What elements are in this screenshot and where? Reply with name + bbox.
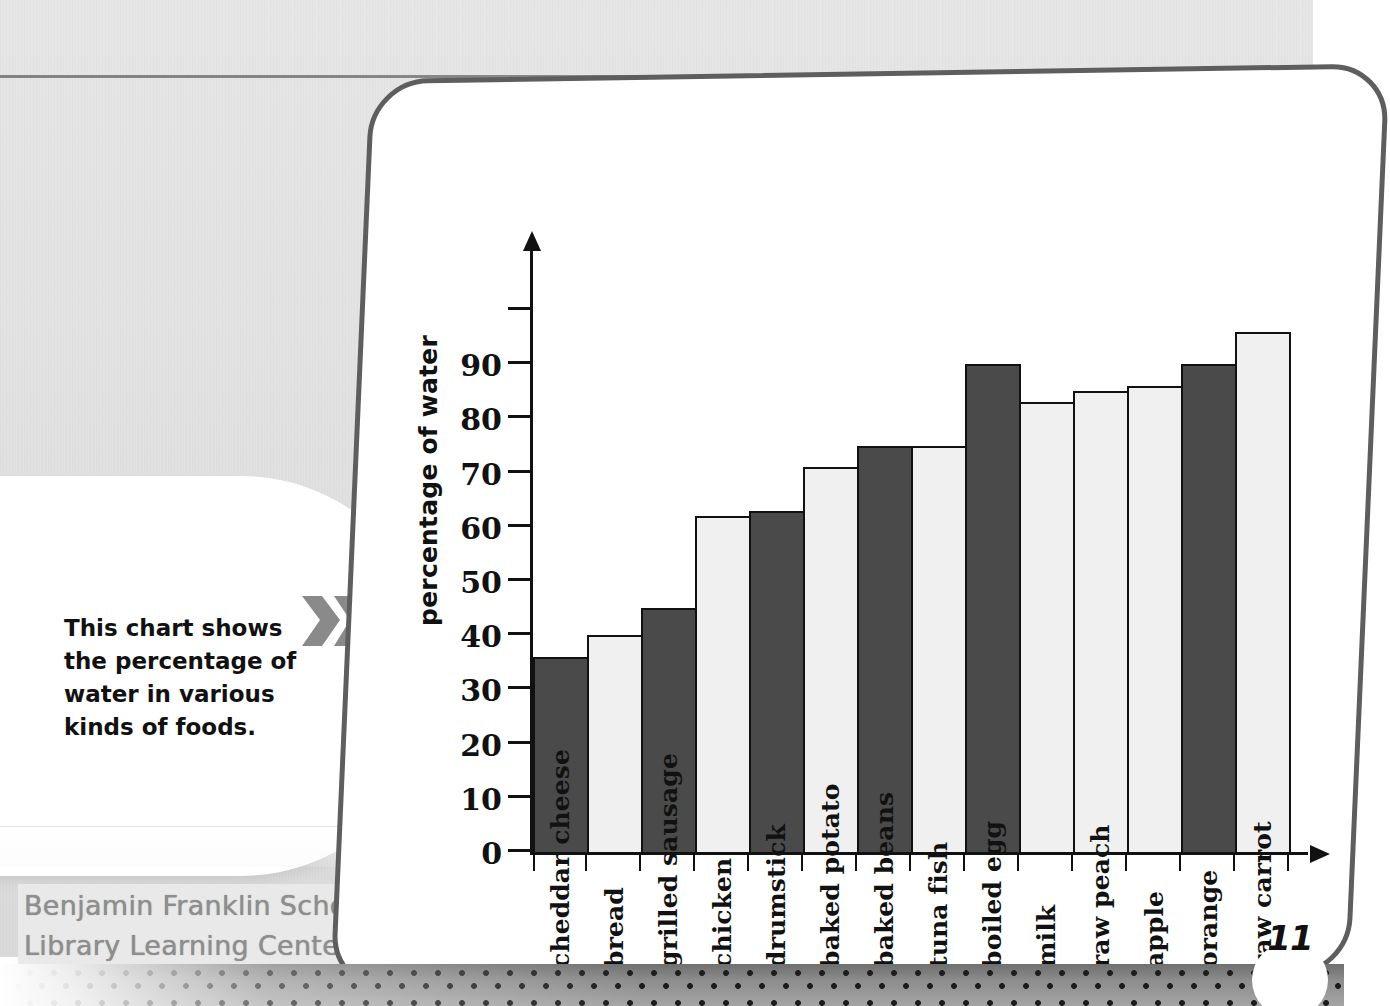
x-axis-label-cell: boiled egg — [965, 749, 1019, 968]
x-axis-label: baked beans — [870, 749, 899, 968]
y-axis-tick — [508, 795, 530, 798]
x-axis-label-cell: baked beans — [857, 749, 911, 968]
x-axis-label: grilled sausage — [654, 749, 683, 968]
y-axis-tick — [508, 741, 530, 744]
y-axis-tick-label: 70 — [446, 456, 502, 491]
y-axis-tick-minor — [508, 307, 530, 310]
y-axis-tick-label: 80 — [446, 402, 502, 437]
page-number: 11 — [1252, 918, 1328, 958]
x-axis-label: drumstick — [762, 749, 791, 968]
x-axis-label-cell: orange — [1181, 749, 1235, 968]
y-axis-tick — [508, 361, 530, 364]
x-axis-arrow-icon — [1310, 845, 1330, 863]
x-axis-label-cell: chicken — [695, 749, 749, 968]
y-axis-tick-label: 50 — [446, 565, 502, 600]
plot-area: 0102030405060708090 cheddar cheesebreadg… — [530, 130, 1310, 855]
y-axis-tick — [508, 632, 530, 635]
x-axis-label-cell: bread — [587, 749, 641, 968]
x-axis-label-cell: baked potato — [803, 749, 857, 968]
bottom-band-fade — [0, 964, 640, 1006]
x-axis-label: cheddar cheese — [546, 749, 575, 968]
x-axis-label-cell: milk — [1019, 749, 1073, 968]
x-axis-label: baked potato — [816, 749, 845, 968]
x-axis-label: chicken — [708, 749, 737, 968]
y-axis-tick — [508, 470, 530, 473]
x-axis-label-cell: cheddar cheese — [533, 749, 587, 968]
y-axis-tick-label: 90 — [446, 348, 502, 383]
x-axis-label: milk — [1032, 749, 1061, 968]
x-axis-label-cell: raw peach — [1073, 749, 1127, 968]
y-axis-tick-label: 30 — [446, 673, 502, 708]
y-axis-tick — [508, 524, 530, 527]
caption-text: This chart shows the percentage of water… — [64, 612, 304, 744]
x-axis-label: tuna fish — [924, 749, 953, 968]
y-axis-tick-label: 40 — [446, 619, 502, 654]
y-axis-tick — [508, 849, 530, 852]
bar-chart: percentage of water 0102030405060708090 … — [400, 120, 1330, 920]
x-axis-label-cell: apple — [1127, 749, 1181, 968]
y-axis-tick — [508, 415, 530, 418]
y-axis-label: percentage of water — [414, 335, 443, 626]
x-axis-label: raw peach — [1086, 749, 1115, 968]
x-axis-label-cell: tuna fish — [911, 749, 965, 968]
x-axis-label: bread — [600, 749, 629, 968]
x-axis-label: boiled egg — [978, 749, 1007, 968]
x-axis-labels: cheddar cheesebreadgrilled sausagechicke… — [533, 749, 1289, 968]
y-axis-tick — [508, 686, 530, 689]
x-axis-label-cell: drumstick — [749, 749, 803, 968]
x-axis-label: apple — [1140, 749, 1169, 968]
y-axis-tick-label: 0 — [446, 836, 502, 871]
y-axis-tick — [508, 578, 530, 581]
y-axis-tick-label: 20 — [446, 727, 502, 762]
y-axis-tick-label: 10 — [446, 781, 502, 816]
x-axis-label: orange — [1194, 749, 1223, 968]
y-axis-tick-label: 60 — [446, 510, 502, 545]
x-axis-label-cell: grilled sausage — [641, 749, 695, 968]
